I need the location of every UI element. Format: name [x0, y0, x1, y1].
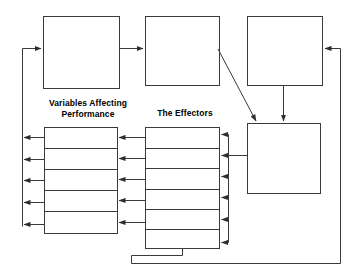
top-box-1	[44, 17, 120, 89]
variables-table	[45, 128, 118, 234]
top-box-3	[248, 17, 323, 86]
diagram-canvas: Variables Affecting Performance The Effe…	[0, 0, 353, 271]
label-variables-affecting-performance: Variables Affecting Performance	[38, 98, 138, 119]
diagram-svg	[0, 0, 353, 271]
top-box-2	[146, 17, 220, 86]
effectors-table	[146, 128, 220, 249]
label-the-effectors: The Effectors	[145, 108, 225, 119]
right-box	[248, 124, 321, 194]
